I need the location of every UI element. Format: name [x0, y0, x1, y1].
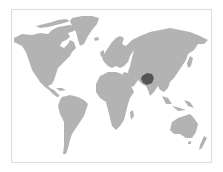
asia: [126, 28, 208, 96]
south-america: [58, 95, 88, 154]
europe: [102, 36, 134, 68]
australia: [170, 114, 198, 138]
greenland: [70, 16, 99, 46]
world-map: [0, 0, 223, 172]
north-america: [14, 25, 76, 97]
